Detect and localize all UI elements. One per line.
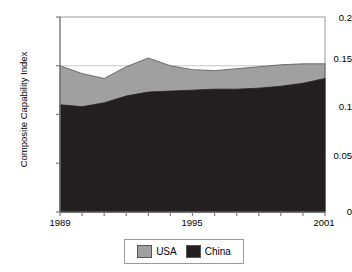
legend-swatch-usa (137, 245, 152, 258)
legend-entry-usa: USA (137, 245, 177, 258)
chart-legend: USA China (124, 239, 244, 264)
y-tick-label-0.15: 0.15 (318, 54, 352, 64)
y-tick-label-0.1: 0.1 (318, 102, 352, 112)
legend-label-usa: USA (156, 247, 177, 257)
plot-area (0, 0, 352, 272)
chart-container: Composite Capability Index 0.2 0.15 0.1 … (0, 0, 352, 272)
legend-swatch-china (186, 245, 201, 258)
legend-label-china: China (205, 247, 231, 257)
legend-entry-china: China (186, 245, 231, 258)
y-tick-label-0.05: 0.05 (318, 151, 352, 161)
y-tick-label-0: 0 (318, 207, 352, 217)
x-tick-label-1995: 1995 (172, 218, 212, 228)
x-tick-label-2001: 2001 (304, 218, 344, 228)
y-tick-label-0.2: 0.2 (318, 13, 352, 23)
x-tick-label-1989: 1989 (40, 218, 80, 228)
y-axis-title: Composite Capability Index (18, 15, 29, 205)
